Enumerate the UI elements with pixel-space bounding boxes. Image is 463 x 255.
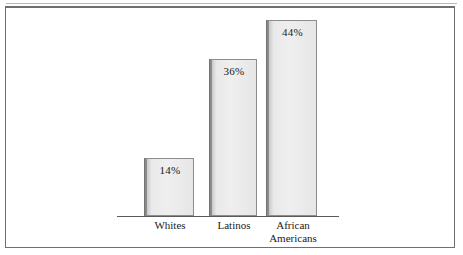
plot-area: 14% Whites 36% Latinos 44% African Ameri… (0, 0, 463, 255)
bar-latinos[interactable]: 36% (211, 59, 257, 216)
category-label-african-americans: African Americans (252, 219, 334, 245)
bar-whites[interactable]: 14% (146, 158, 194, 216)
bar-value-african-americans: 44% (269, 26, 316, 38)
chart-figure: 14% Whites 36% Latinos 44% African Ameri… (0, 0, 463, 255)
category-axis-line (117, 216, 339, 217)
bar-value-latinos: 36% (212, 65, 256, 77)
bar-african-americans[interactable]: 44% (268, 20, 317, 216)
bar-value-whites: 14% (147, 164, 193, 176)
